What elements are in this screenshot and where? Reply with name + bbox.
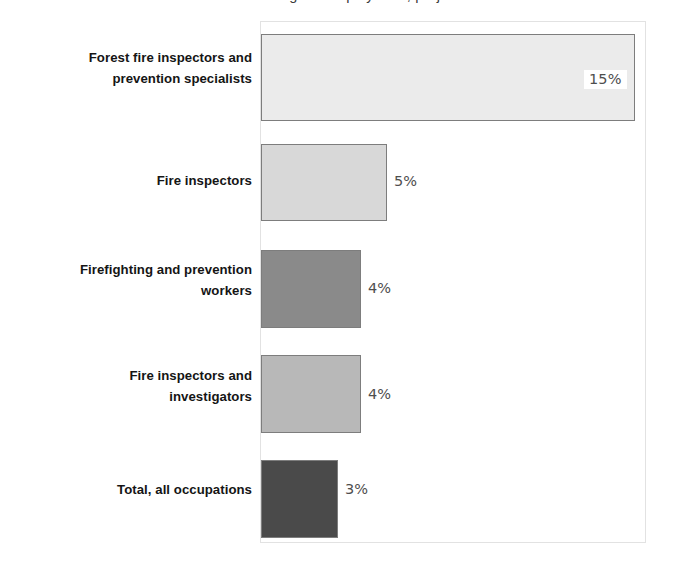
bar-chart: Percent change in employment, projected …	[0, 0, 678, 564]
category-label-line2: investigators	[169, 389, 252, 404]
bar-value-label: 15%	[584, 70, 627, 89]
bar-fire-inspectors	[261, 144, 387, 221]
bar-total-all-occupations	[261, 460, 338, 538]
category-label: Fire inspectors and investigators	[8, 365, 252, 407]
bar-fire-inspectors-investigators	[261, 355, 361, 433]
category-label: Fire inspectors	[8, 170, 252, 191]
category-label: Firefighting and prevention workers	[8, 259, 252, 301]
category-label-line1: Fire inspectors	[157, 173, 252, 188]
bar-firefighting-prevention-workers	[261, 250, 361, 328]
category-label-line1: Fire inspectors and	[129, 368, 252, 383]
category-label-line2: workers	[201, 283, 252, 298]
bar-value-label: 4%	[368, 280, 391, 296]
bar-value-label: 5%	[394, 173, 417, 189]
category-label: Forest fire inspectors and prevention sp…	[8, 47, 252, 89]
category-label-line1: Forest fire inspectors and	[89, 50, 252, 65]
category-label-line2: prevention specialists	[112, 71, 252, 86]
category-label-line1: Firefighting and prevention	[80, 262, 252, 277]
category-label-line1: Total, all occupations	[117, 482, 252, 497]
chart-title: Percent change in employment, projected	[0, 0, 678, 3]
bar-value-label: 4%	[368, 386, 391, 402]
category-label: Total, all occupations	[8, 479, 252, 500]
bar-value-label: 3%	[345, 481, 368, 497]
bar-forest-fire-inspectors	[261, 34, 635, 121]
